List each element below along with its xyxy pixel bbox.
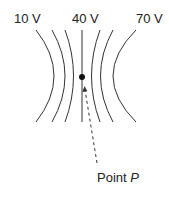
point-p-dot	[79, 74, 85, 80]
equipotential-diagram	[0, 0, 169, 197]
equipotential-line-3	[65, 30, 74, 122]
point-label-name: P	[130, 170, 139, 185]
equipotential-line-7	[113, 30, 136, 122]
equipotential-line-6	[101, 30, 114, 122]
equipotential-line-1	[36, 30, 54, 122]
arrowhead-icon	[82, 86, 87, 92]
point-label-prefix: Point	[97, 170, 130, 185]
equipotential-line-5	[92, 30, 101, 122]
point-p-label: Point P	[97, 171, 139, 184]
dashed-arrow	[85, 90, 97, 163]
